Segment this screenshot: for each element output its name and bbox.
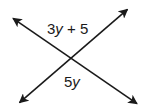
top-angle-label: 3y + 5 <box>47 20 88 37</box>
bottom-angle-label: 5y <box>64 73 81 90</box>
vertical-angles-diagram: 3y + 5 5y <box>0 0 145 112</box>
